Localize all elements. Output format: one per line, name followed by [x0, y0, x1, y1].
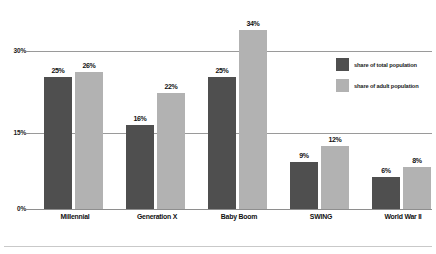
bar-generation-x-adult[interactable] — [157, 93, 185, 209]
bar-swing-adult[interactable] — [321, 146, 349, 209]
bar-group-millennial: 25% 26% — [44, 14, 106, 209]
bar-label-millennial-adult: 26% — [73, 61, 105, 70]
bar-label-generation-x-total: 16% — [124, 114, 156, 123]
x-axis-line — [30, 209, 432, 210]
bar-millennial-total[interactable] — [44, 77, 72, 209]
bar-group-swing: 9% 12% — [290, 14, 352, 209]
bar-groups: 25% 26% 16% 22% 25% 34% 9% — [30, 14, 432, 209]
bar-world-war-ii-adult[interactable] — [403, 167, 431, 209]
legend-swatch-icon-total — [336, 58, 349, 71]
x-axis-label-swing: SWING — [292, 212, 349, 221]
bar-label-swing-adult: 12% — [319, 135, 351, 144]
x-axis-labels: Millennial Generation X Baby Boom SWING … — [30, 212, 432, 228]
bar-group-generation-x: 16% 22% — [126, 14, 188, 209]
y-axis-tick-15: 15% — [0, 129, 26, 136]
legend-swatch-icon-adult — [336, 79, 349, 92]
bar-world-war-ii-total[interactable] — [372, 177, 400, 209]
bar-group-baby-boom: 25% 34% — [208, 14, 270, 209]
bar-label-baby-boom-total: 25% — [206, 66, 238, 75]
bottom-divider — [4, 246, 432, 247]
bar-swing-total[interactable] — [290, 162, 318, 209]
bar-label-world-war-ii-total: 6% — [370, 166, 402, 175]
chart-legend: share of total population share of adult… — [336, 58, 436, 100]
bar-label-world-war-ii-adult: 8% — [401, 156, 433, 165]
bar-group-world-war-ii: 6% 8% — [372, 14, 434, 209]
legend-item-adult-population[interactable]: share of adult population — [336, 79, 436, 92]
bar-label-swing-total: 9% — [288, 151, 320, 160]
bar-label-baby-boom-adult: 34% — [237, 19, 269, 28]
x-axis-label-generation-x: Generation X — [128, 212, 185, 221]
legend-label-adult-population: share of adult population — [354, 83, 419, 89]
x-axis-label-baby-boom: Baby Boom — [210, 212, 267, 221]
x-axis-label-world-war-ii: World War II — [374, 212, 431, 221]
bar-label-generation-x-adult: 22% — [155, 82, 187, 91]
bar-baby-boom-total[interactable] — [208, 77, 236, 209]
bar-millennial-adult[interactable] — [75, 72, 103, 209]
y-axis: 30% 15% 0% — [0, 14, 30, 209]
bar-chart: 30% 15% 0% 25% 26% 16% 22% — [0, 0, 436, 254]
plot-area: 25% 26% 16% 22% 25% 34% 9% — [30, 14, 432, 209]
y-axis-tick-30: 30% — [0, 47, 26, 54]
legend-item-total-population[interactable]: share of total population — [336, 58, 436, 71]
x-axis-label-millennial: Millennial — [46, 212, 103, 221]
y-axis-tick-0: 0% — [0, 205, 26, 212]
bar-label-millennial-total: 25% — [42, 66, 74, 75]
legend-label-total-population: share of total population — [354, 62, 417, 68]
bar-generation-x-total[interactable] — [126, 125, 154, 209]
bar-baby-boom-adult[interactable] — [239, 30, 267, 209]
